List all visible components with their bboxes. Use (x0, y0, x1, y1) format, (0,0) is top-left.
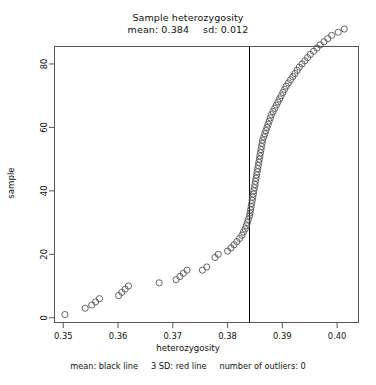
data-point (325, 35, 331, 41)
data-point (156, 280, 162, 286)
data-point (62, 311, 68, 317)
data-point (341, 26, 347, 32)
data-point (96, 296, 102, 302)
data-point (199, 267, 205, 273)
data-point (184, 267, 190, 273)
plot-panel-border (55, 47, 359, 323)
data-point (92, 299, 98, 305)
y-axis-tick-label: 80 (40, 59, 50, 70)
data-point (89, 302, 95, 308)
data-point (321, 39, 327, 45)
y-axis-label: sample (6, 153, 16, 213)
x-axis-tick-label: 0.39 (273, 331, 292, 341)
scatter-plot-svg: 0.350.360.370.380.390.40020406080 (0, 0, 376, 385)
y-axis-tick-label: 60 (40, 122, 50, 133)
y-axis-tick-label: 0 (40, 315, 50, 320)
plot-root: Sample heterozygosity mean: 0.384sd: 0.0… (0, 0, 376, 385)
x-axis-tick-label: 0.37 (163, 331, 182, 341)
y-axis-tick-label: 40 (40, 186, 50, 197)
data-point (329, 32, 335, 38)
data-point (173, 277, 179, 283)
plot-caption: mean: black line3 SD: red linenumber of … (0, 361, 376, 371)
data-points-group (62, 26, 348, 318)
x-axis-label: heterozygosity (0, 343, 376, 353)
data-point (204, 264, 210, 270)
data-point (335, 29, 341, 35)
caption-sd-legend: 3 SD: red line (151, 361, 206, 371)
x-axis-tick-label: 0.38 (218, 331, 237, 341)
caption-mean-legend: mean: black line (70, 361, 138, 371)
x-axis-tick-label: 0.40 (328, 331, 347, 341)
plot-canvas: 0.350.360.370.380.390.40020406080 (0, 0, 376, 385)
data-point (82, 305, 88, 311)
y-axis-tick-label: 20 (40, 249, 50, 260)
x-axis-tick-label: 0.35 (54, 331, 73, 341)
x-axis-tick-label: 0.36 (109, 331, 128, 341)
caption-outliers: number of outliers: 0 (219, 361, 305, 371)
